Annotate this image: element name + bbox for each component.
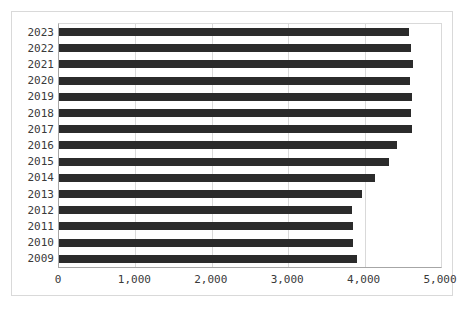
bar-2016 [59, 141, 397, 149]
bar-row: 2009 [59, 251, 441, 267]
x-tick-2000: 2,000 [194, 274, 227, 285]
y-axis-label-2020: 2020 [28, 75, 55, 86]
y-axis-label-2016: 2016 [28, 140, 55, 151]
bar-row: 2019 [59, 89, 441, 105]
y-axis-label-2009: 2009 [28, 253, 55, 264]
y-axis-label-2018: 2018 [28, 108, 55, 119]
bar-2018 [59, 109, 411, 117]
bar-2014 [59, 174, 375, 182]
x-tick-3000: 3,000 [271, 274, 304, 285]
y-axis-label-2021: 2021 [28, 59, 55, 70]
bar-2012 [59, 206, 352, 214]
bar-row: 2013 [59, 186, 441, 202]
bar-2011 [59, 222, 353, 230]
y-axis-label-2017: 2017 [28, 124, 55, 135]
y-axis-label-2010: 2010 [28, 237, 55, 248]
x-tick-1000: 1,000 [118, 274, 151, 285]
y-axis-label-2022: 2022 [28, 43, 55, 54]
bar-row: 2018 [59, 105, 441, 121]
bar-row: 2021 [59, 56, 441, 72]
bar-row: 2022 [59, 40, 441, 56]
bar-row: 2012 [59, 202, 441, 218]
bar-2015 [59, 158, 389, 166]
plot-area: 2023202220212020201920182017201620152014… [58, 23, 442, 268]
bar-row: 2016 [59, 137, 441, 153]
y-axis-label-2013: 2013 [28, 189, 55, 200]
gridline-5000 [441, 24, 442, 267]
bar-row: 2011 [59, 218, 441, 234]
bar-row: 2017 [59, 121, 441, 137]
bar-series: 2023202220212020201920182017201620152014… [59, 24, 441, 267]
bar-2022 [59, 44, 411, 52]
y-axis-label-2012: 2012 [28, 205, 55, 216]
x-tick-4000: 4,000 [347, 274, 380, 285]
bar-2021 [59, 60, 413, 68]
x-tick-5000: 5,000 [423, 274, 456, 285]
bar-2013 [59, 190, 362, 198]
y-axis-label-2015: 2015 [28, 156, 55, 167]
bar-row: 2010 [59, 235, 441, 251]
bar-row: 2015 [59, 154, 441, 170]
bar-2019 [59, 93, 412, 101]
bar-row: 2023 [59, 24, 441, 40]
bar-row: 2020 [59, 73, 441, 89]
y-axis-label-2019: 2019 [28, 91, 55, 102]
bar-row: 2014 [59, 170, 441, 186]
bar-2020 [59, 77, 410, 85]
y-axis-label-2011: 2011 [28, 221, 55, 232]
y-axis-label-2023: 2023 [28, 27, 55, 38]
bar-2023 [59, 28, 409, 36]
chart-frame: 2023202220212020201920182017201620152014… [11, 11, 453, 296]
bar-2017 [59, 125, 412, 133]
bar-2010 [59, 239, 353, 247]
x-tick-0: 0 [55, 274, 62, 285]
bar-2009 [59, 255, 357, 263]
y-axis-label-2014: 2014 [28, 172, 55, 183]
